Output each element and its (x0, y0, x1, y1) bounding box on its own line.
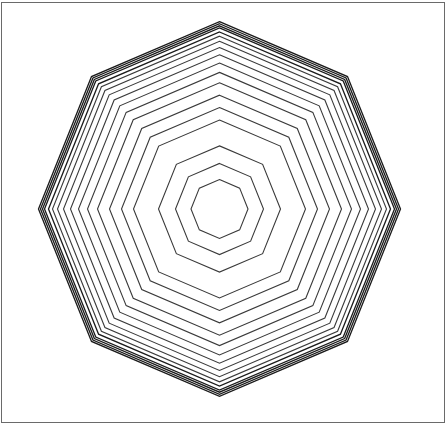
octagon-ring-2 (176, 163, 264, 254)
octagon-ring-10 (71, 55, 369, 363)
octagon-ring-6 (110, 95, 330, 323)
octagon-ring-14 (49, 32, 391, 386)
octagon-ring-13 (53, 36, 387, 382)
octagon-ring-9 (79, 63, 361, 355)
octagon-ring-8 (88, 72, 352, 345)
octagon-ring-4 (134, 120, 306, 298)
octagon-ring-12 (58, 41, 382, 376)
octagon-ring-5 (122, 108, 318, 311)
concentric-octagons-diagram (0, 0, 448, 426)
octagon-ring-1 (191, 180, 248, 239)
octagon-ring-3 (159, 146, 281, 272)
octagon-ring-7 (98, 83, 342, 336)
octagon-ring-11 (64, 48, 376, 371)
